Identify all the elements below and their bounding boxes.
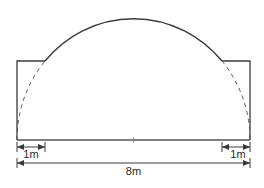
left-wall: [17, 61, 45, 140]
arch-arc-solid: [45, 19, 222, 61]
arch-arc-dashed-right: [222, 61, 250, 140]
arch-arc-dashed-left: [17, 61, 45, 140]
total-width-label: 8m: [126, 165, 141, 177]
right-wall: [222, 61, 250, 140]
right-offset-label: 1m: [230, 148, 245, 160]
arch-diagram: 1m 1m 8m: [0, 0, 264, 188]
left-offset-label: 1m: [23, 148, 38, 160]
